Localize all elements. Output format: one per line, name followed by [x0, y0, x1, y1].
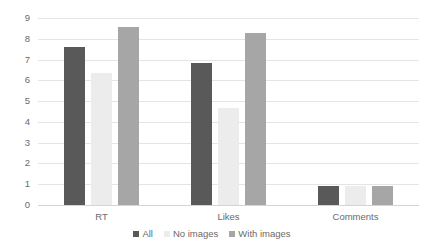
- x-axis-category-label: Likes: [217, 212, 239, 222]
- gridline: [38, 39, 419, 40]
- plot-area: [38, 18, 419, 205]
- bar: [245, 33, 266, 205]
- legend-swatch-icon: [164, 231, 170, 237]
- bar: [91, 73, 112, 205]
- gridline: [38, 18, 419, 19]
- bar: [218, 108, 239, 205]
- bar: [64, 47, 85, 205]
- y-axis-tick-label: 4: [25, 117, 30, 127]
- legend-label: With images: [238, 229, 290, 239]
- bar: [372, 186, 393, 205]
- y-axis-tick-label: 9: [25, 13, 30, 23]
- legend-swatch-icon: [229, 231, 235, 237]
- y-axis-tick-label: 8: [25, 34, 30, 44]
- bar-chart: 0123456789 AllNo imagesWith images RTLik…: [0, 0, 424, 247]
- legend-item[interactable]: With images: [229, 229, 290, 239]
- y-axis-tick-label: 0: [25, 200, 30, 210]
- y-axis-tick-label: 2: [25, 159, 30, 169]
- gridline: [38, 60, 419, 61]
- y-axis-tick-label: 6: [25, 76, 30, 86]
- y-axis: 0123456789: [0, 0, 38, 214]
- chart-legend: AllNo imagesWith images: [0, 229, 424, 239]
- bar: [318, 186, 339, 205]
- bar: [191, 63, 212, 205]
- legend-swatch-icon: [133, 231, 139, 237]
- legend-item[interactable]: All: [133, 229, 153, 239]
- y-axis-tick-label: 3: [25, 138, 30, 148]
- x-axis-category-label: RT: [95, 212, 108, 222]
- legend-label: No images: [173, 229, 218, 239]
- bar: [118, 27, 139, 205]
- bar: [345, 186, 366, 205]
- legend-label: All: [142, 229, 153, 239]
- gridline: [38, 205, 419, 206]
- x-axis-category-label: Comments: [333, 212, 379, 222]
- y-axis-tick-label: 5: [25, 96, 30, 106]
- y-axis-tick-label: 7: [25, 55, 30, 65]
- y-axis-tick-label: 1: [25, 179, 30, 189]
- legend-item[interactable]: No images: [164, 229, 218, 239]
